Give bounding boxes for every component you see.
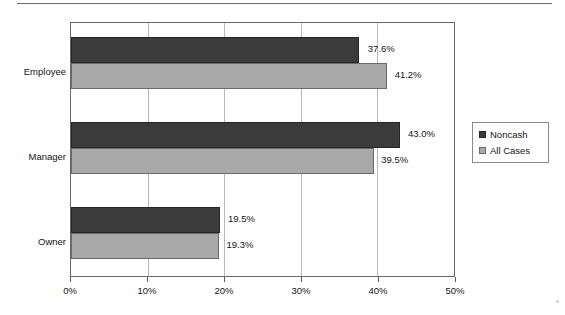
- legend-swatch-icon-allcases: [479, 147, 486, 154]
- bar-manager-noncash[interactable]: [71, 122, 400, 148]
- plot-area: 37.6% 41.2% 43.0% 39.5% 19.5% 19.3%: [70, 22, 455, 277]
- xtick-label-30: 30%: [291, 285, 310, 296]
- xtick-mark-20: [224, 277, 225, 282]
- xtick-label-50: 50%: [445, 285, 464, 296]
- legend-item-noncash[interactable]: Noncash: [479, 129, 528, 140]
- value-label-owner-noncash: 19.5%: [228, 214, 255, 224]
- gridline-40: [377, 23, 378, 276]
- xtick-label-10: 10%: [137, 285, 156, 296]
- value-label-employee-noncash: 37.6%: [368, 44, 395, 54]
- value-label-owner-allcases: 19.3%: [226, 240, 253, 250]
- xtick-label-0: 0%: [63, 285, 77, 296]
- scan-speck: [556, 300, 559, 303]
- xtick-mark-10: [147, 277, 148, 282]
- category-label-manager: Manager: [29, 151, 67, 162]
- xtick-label-20: 20%: [214, 285, 233, 296]
- xtick-mark-0: [70, 277, 71, 282]
- value-label-manager-allcases: 39.5%: [381, 155, 408, 165]
- category-label-owner: Owner: [38, 236, 66, 247]
- bar-employee-allcases[interactable]: [71, 63, 387, 89]
- value-label-employee-allcases: 41.2%: [395, 70, 422, 80]
- xtick-mark-40: [378, 277, 379, 282]
- xtick-mark-50: [455, 277, 456, 282]
- category-axis: Employee Manager Owner: [0, 22, 66, 277]
- bar-owner-allcases[interactable]: [71, 233, 219, 259]
- xtick-label-40: 40%: [368, 285, 387, 296]
- bar-owner-noncash[interactable]: [71, 207, 220, 233]
- chart-legend: Noncash All Cases: [472, 122, 549, 163]
- legend-label-noncash: Noncash: [490, 129, 528, 140]
- xtick-mark-30: [301, 277, 302, 282]
- bar-chart-figure: Employee Manager Owner 37.6% 41.2% 43.0%…: [0, 0, 565, 315]
- legend-label-allcases: All Cases: [490, 145, 530, 156]
- legend-swatch-icon-noncash: [479, 131, 486, 138]
- bar-employee-noncash[interactable]: [71, 37, 359, 63]
- legend-item-allcases[interactable]: All Cases: [479, 145, 530, 156]
- page-rule: [17, 3, 552, 4]
- category-label-employee: Employee: [24, 66, 66, 77]
- bar-manager-allcases[interactable]: [71, 148, 374, 174]
- value-label-manager-noncash: 43.0%: [408, 129, 435, 139]
